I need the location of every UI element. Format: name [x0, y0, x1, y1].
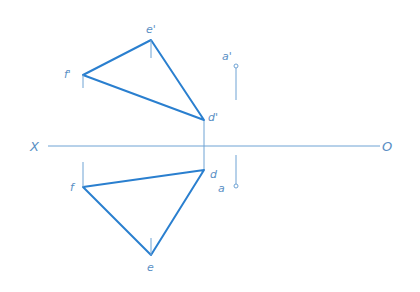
triangle-horizontal-view [83, 162, 204, 255]
label-d-prime: d' [208, 111, 218, 124]
point-a-prime [234, 64, 238, 100]
label-e-prime: e' [146, 23, 156, 36]
axis-label-x: X [29, 139, 40, 154]
point-a [234, 155, 238, 188]
axis-label-o: O [382, 139, 392, 154]
label-f: f [70, 181, 76, 194]
label-a: a [218, 182, 225, 195]
projection-diagram: X O e' f' d' a' f d e a [0, 0, 420, 292]
label-e: e [147, 261, 154, 274]
label-d: d [210, 168, 218, 181]
label-a-prime: a' [222, 50, 232, 63]
triangle-vertical-view [83, 40, 204, 120]
label-f-prime: f' [64, 68, 71, 81]
